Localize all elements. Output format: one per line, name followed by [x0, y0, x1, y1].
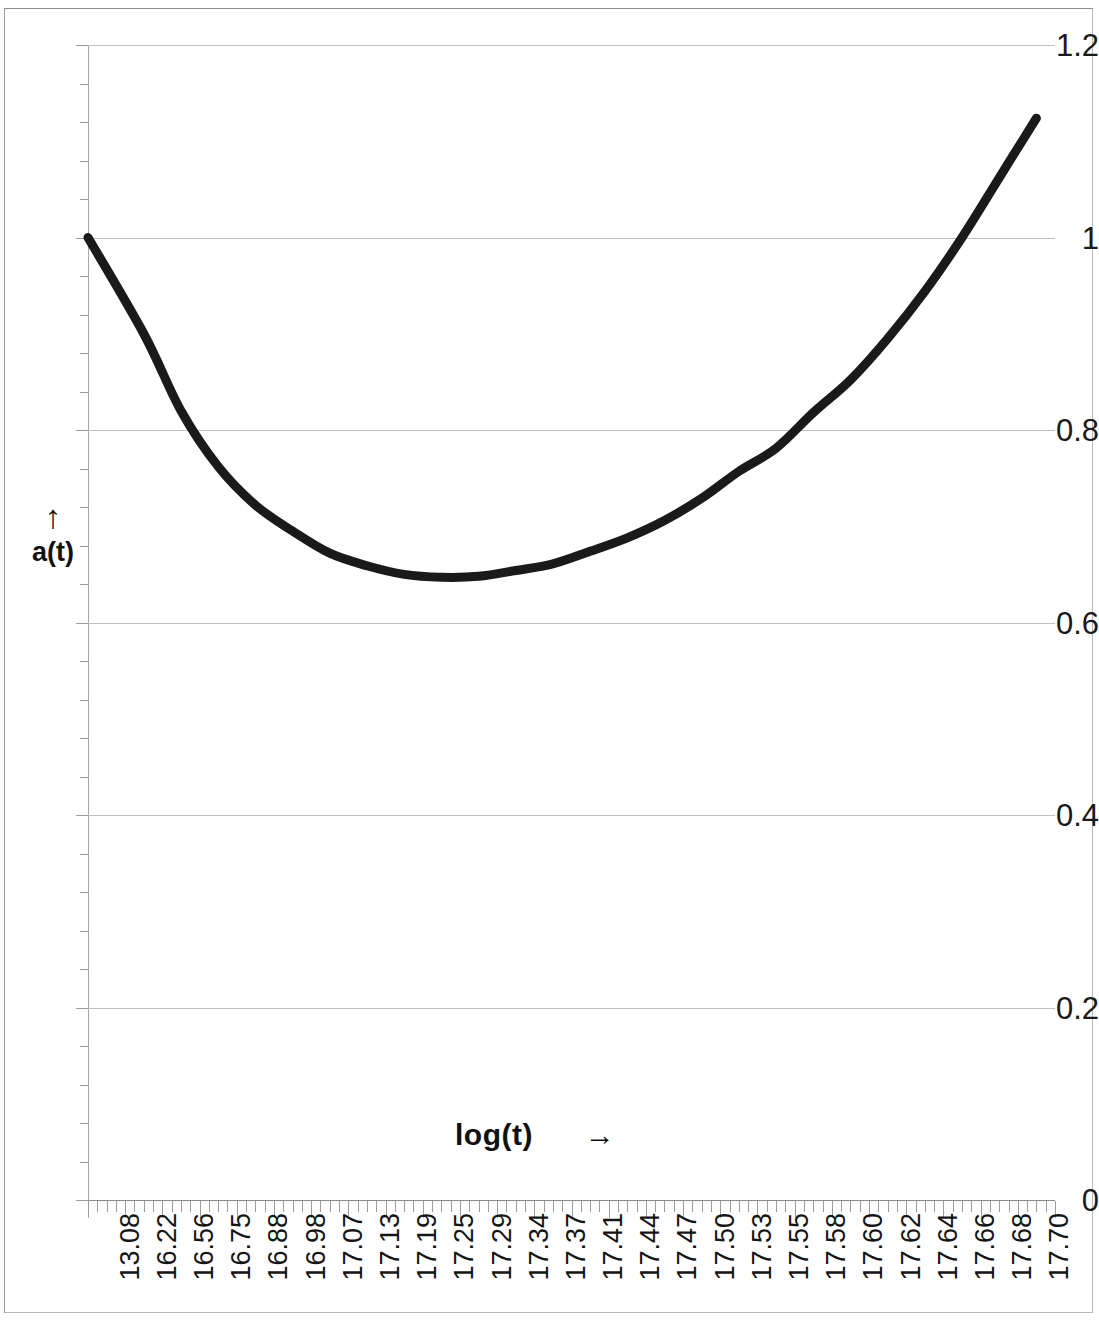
x-tick-minor	[562, 1201, 563, 1212]
data-series-line	[88, 45, 1055, 1200]
x-tick-minor	[878, 1201, 879, 1212]
x-tick-minor	[404, 1201, 405, 1212]
x-tick-minor	[599, 1201, 600, 1212]
x-tick-label: 17.50	[712, 1213, 739, 1281]
x-tick-minor	[172, 1201, 173, 1212]
x-tick-minor	[479, 1201, 480, 1212]
x-tick-label: 16.75	[228, 1213, 255, 1281]
x-tick-minor	[999, 1201, 1000, 1212]
x-tick-minor	[320, 1201, 321, 1212]
x-tick-minor	[153, 1201, 154, 1212]
x-tick-minor	[97, 1201, 98, 1212]
x-tick-minor	[265, 1201, 266, 1212]
x-tick-minor	[739, 1201, 740, 1212]
x-tick-label: 17.62	[898, 1213, 925, 1281]
x-tick-minor	[107, 1201, 108, 1212]
x-tick-minor	[376, 1201, 377, 1212]
chart-page: 1.210.80.60.40.20 13.0816.2216.5616.7516…	[0, 0, 1099, 1327]
x-tick-minor	[841, 1201, 842, 1212]
x-tick-minor	[711, 1201, 712, 1212]
x-tick-minor	[655, 1201, 656, 1212]
x-tick-minor	[767, 1201, 768, 1212]
x-tick-label: 17.66	[972, 1213, 999, 1281]
x-tick-minor	[246, 1201, 247, 1212]
x-tick-major	[88, 1201, 89, 1218]
x-tick-minor	[190, 1201, 191, 1212]
x-tick-label: 13.08	[117, 1213, 144, 1281]
x-tick-minor	[358, 1201, 359, 1212]
x-tick-minor	[776, 1201, 777, 1212]
x-tick-label: 16.98	[303, 1213, 330, 1281]
x-tick-minor	[785, 1201, 786, 1212]
x-tick-label: 17.34	[526, 1213, 553, 1281]
x-tick-label: 17.41	[600, 1213, 627, 1281]
x-tick-minor	[441, 1201, 442, 1212]
x-tick-minor	[413, 1201, 414, 1212]
x-tick-label: 17.60	[860, 1213, 887, 1281]
page-border-top-edge	[4, 8, 1093, 9]
x-tick-minor	[367, 1201, 368, 1212]
x-tick-minor	[469, 1201, 470, 1212]
x-tick-minor	[627, 1201, 628, 1212]
x-tick-minor	[181, 1201, 182, 1212]
x-tick-minor	[748, 1201, 749, 1212]
x-tick-minor	[581, 1201, 582, 1212]
plot-area	[88, 45, 1055, 1200]
x-tick-label: 17.13	[377, 1213, 404, 1281]
x-tick-label: 17.68	[1009, 1213, 1036, 1281]
curve-path	[88, 118, 1036, 577]
x-tick-minor	[255, 1201, 256, 1212]
x-tick-minor	[1027, 1201, 1028, 1212]
x-tick-minor	[702, 1201, 703, 1212]
x-tick-minor	[553, 1201, 554, 1212]
y-axis-title-text: a(t)	[32, 537, 74, 567]
x-tick-minor	[637, 1201, 638, 1212]
x-tick-label: 16.56	[191, 1213, 218, 1281]
x-tick-minor	[330, 1201, 331, 1212]
x-tick-minor	[916, 1201, 917, 1212]
x-tick-minor	[1046, 1201, 1047, 1212]
x-tick-minor	[488, 1201, 489, 1212]
x-tick-minor	[953, 1201, 954, 1212]
x-tick-minor	[664, 1201, 665, 1212]
x-tick-minor	[590, 1201, 591, 1212]
x-tick-label: 16.88	[265, 1213, 292, 1281]
x-tick-minor	[293, 1201, 294, 1212]
x-tick-minor	[962, 1201, 963, 1212]
x-tick-minor	[1009, 1201, 1010, 1212]
x-tick-label: 16.22	[154, 1213, 181, 1281]
x-tick-label: 17.25	[451, 1213, 478, 1281]
x-tick-minor	[804, 1201, 805, 1212]
x-tick-label: 17.55	[786, 1213, 813, 1281]
x-tick-minor	[218, 1201, 219, 1212]
x-tick-minor	[302, 1201, 303, 1212]
x-tick-minor	[432, 1201, 433, 1212]
x-tick-minor	[897, 1201, 898, 1212]
x-tick-minor	[525, 1201, 526, 1212]
y-axis-title: ↑ a(t)	[22, 500, 84, 568]
x-tick-minor	[1036, 1201, 1037, 1212]
x-tick-label: 17.07	[340, 1213, 367, 1281]
x-tick-minor	[850, 1201, 851, 1212]
x-tick-minor	[971, 1201, 972, 1212]
x-tick-label: 17.47	[674, 1213, 701, 1281]
x-axis-title-text: log(t)	[455, 1118, 533, 1151]
x-axis-arrow-icon: →	[585, 1118, 616, 1151]
x-tick-label: 17.19	[414, 1213, 441, 1281]
x-tick-minor	[144, 1201, 145, 1212]
x-tick-label: 17.53	[749, 1213, 776, 1281]
x-tick-minor	[888, 1201, 889, 1212]
x-tick-minor	[990, 1201, 991, 1212]
x-tick-minor	[395, 1201, 396, 1212]
x-tick-minor	[339, 1201, 340, 1212]
page-border-left-edge	[4, 8, 5, 1313]
x-tick-minor	[283, 1201, 284, 1212]
x-tick-minor	[925, 1201, 926, 1212]
x-tick-minor	[227, 1201, 228, 1212]
x-tick-minor	[506, 1201, 507, 1212]
x-tick-label: 17.29	[489, 1213, 516, 1281]
x-tick-minor	[116, 1201, 117, 1212]
x-tick-minor	[730, 1201, 731, 1212]
x-tick-minor	[813, 1201, 814, 1212]
x-tick-minor	[934, 1201, 935, 1212]
